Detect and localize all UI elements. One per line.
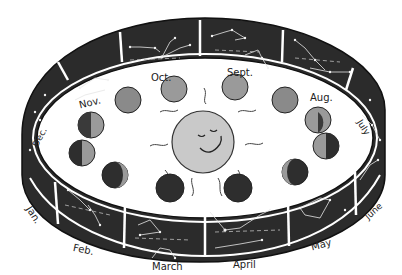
zodiac-illustration (0, 0, 402, 275)
zodiac-diagram: Oct. Sept. Nov. Aug. Dec. July Jan. Feb.… (0, 0, 402, 275)
month-label-mar: March (152, 262, 182, 272)
month-label-apr: April (233, 260, 256, 270)
month-label-aug: Aug. (310, 93, 333, 103)
month-label-sep: Sept. (227, 68, 253, 78)
month-label-oct: Oct. (151, 73, 171, 83)
